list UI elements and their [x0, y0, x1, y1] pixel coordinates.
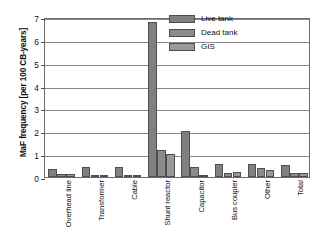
x-axis-label: Other	[263, 180, 272, 199]
chart-legend: Live tankDead tankGIS	[166, 10, 241, 58]
bar	[266, 170, 274, 177]
y-tick-label: 4	[34, 83, 39, 93]
y-tick-label: 7	[34, 14, 39, 24]
legend-label: GIS	[201, 42, 215, 51]
bar	[181, 131, 189, 177]
y-tick-label: 0	[34, 174, 39, 184]
bar	[100, 175, 108, 177]
y-tick-label: 6	[34, 37, 39, 47]
legend-swatch-icon	[169, 15, 195, 23]
bar	[248, 164, 256, 177]
bar	[133, 175, 141, 177]
bar-chart: MaF frequency [per 100 CB-years] 0123456…	[0, 0, 317, 248]
y-axis-title: MaF frequency [per 100 CB-years]	[19, 8, 28, 178]
bar	[48, 169, 56, 177]
x-axis-label: Total	[296, 180, 305, 196]
x-axis-label: Overhead line	[64, 180, 73, 227]
bar	[190, 167, 198, 177]
bar	[124, 175, 132, 177]
x-axis-label: Transformer	[97, 180, 106, 221]
bar	[299, 173, 307, 177]
legend-swatch-icon	[169, 43, 195, 51]
legend-item: Dead tank	[169, 27, 237, 38]
bar-group	[82, 19, 108, 177]
bar-group	[48, 19, 74, 177]
bar	[199, 175, 207, 177]
bar-group	[115, 19, 141, 177]
y-tick-label: 3	[34, 105, 39, 115]
bar	[281, 165, 289, 177]
bar	[257, 168, 265, 177]
bar-group	[248, 19, 274, 177]
bar	[215, 164, 223, 177]
bar	[166, 154, 174, 177]
bar-group	[281, 19, 307, 177]
bar	[290, 173, 298, 177]
bar	[148, 22, 156, 177]
legend-item: Live tank	[169, 13, 237, 24]
x-axis-label: Shunt reactor	[163, 180, 172, 226]
bar	[82, 167, 90, 177]
legend-label: Dead tank	[201, 28, 237, 37]
y-tick-label: 5	[34, 60, 39, 70]
bar	[91, 175, 99, 177]
x-axis-label: Capacitor	[197, 180, 206, 213]
bar	[157, 150, 165, 177]
legend-label: Live tank	[201, 14, 233, 23]
x-axis-label: Cable	[130, 180, 139, 200]
bar	[57, 174, 65, 177]
bar	[224, 173, 232, 177]
legend-swatch-icon	[169, 29, 195, 37]
y-tick-label: 1	[34, 151, 39, 161]
legend-item: GIS	[169, 41, 237, 52]
bar	[66, 174, 74, 177]
x-axis-label: Bus coupler	[230, 180, 239, 220]
bar	[115, 167, 123, 177]
y-tick-label: 2	[34, 128, 39, 138]
bar	[233, 172, 241, 177]
x-axis-labels: Overhead lineTransformerCableShunt react…	[44, 180, 310, 246]
